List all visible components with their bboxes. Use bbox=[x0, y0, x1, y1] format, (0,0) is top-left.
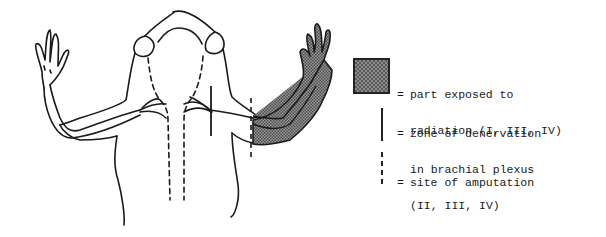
irradiated-arm bbox=[253, 24, 332, 145]
legend-text-line: zone of denervation bbox=[410, 127, 541, 140]
legend-item-amputation: =site of amputation bbox=[350, 150, 606, 190]
equals-sign: = bbox=[397, 88, 404, 101]
dashed-line-icon bbox=[381, 152, 383, 184]
solid-line-icon bbox=[381, 108, 383, 141]
head-outline bbox=[134, 11, 224, 56]
shaded-box-icon bbox=[353, 58, 390, 94]
legend-item-radiation: =part exposed to radiation (I, III, IV) bbox=[350, 56, 606, 96]
left-hand bbox=[36, 30, 69, 88]
legend-text-line: site of amputation bbox=[410, 176, 534, 189]
equals-sign: = bbox=[397, 127, 404, 140]
legend-item-denervation: =zone of denervation in brachial plexus … bbox=[350, 104, 606, 148]
body-right-outline bbox=[223, 49, 260, 118]
equals-sign: = bbox=[397, 176, 404, 189]
legend-text-line: part exposed to bbox=[410, 88, 514, 101]
left-arm bbox=[50, 85, 140, 131]
